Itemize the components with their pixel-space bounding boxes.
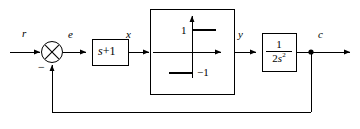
label-nonlinearity-output-y: y (238, 29, 243, 40)
diagram-canvas (0, 0, 360, 129)
label-error-e: e (68, 29, 73, 40)
label-plant-output-c: c (318, 29, 323, 40)
nonlinearity-lower-level-label: −1 (197, 67, 209, 78)
label-reference-r: r (22, 28, 26, 39)
block-diagram: r e x y c − s+1 1 −1 1 2s2 (0, 0, 360, 129)
nonlinearity-upper-level-label: 1 (181, 25, 187, 36)
plant-denominator: 2s2 (266, 52, 292, 64)
plant-denominator-exponent: 2 (282, 51, 286, 59)
label-controller-output-x: x (126, 29, 131, 40)
feedback-minus-sign: − (38, 61, 45, 73)
controller-block-rest: +1 (103, 44, 116, 58)
plant-block-transfer-function: 1 2s2 (266, 39, 292, 64)
controller-block-label: s+1 (98, 45, 115, 57)
plant-numerator: 1 (266, 39, 292, 51)
